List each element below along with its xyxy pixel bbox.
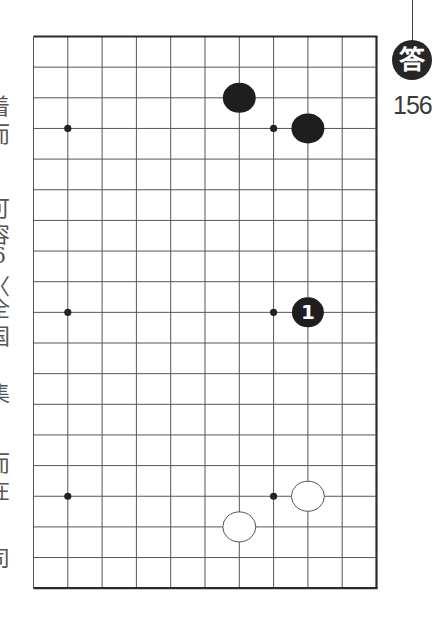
star-point [270, 309, 277, 316]
problem-number: 156 [393, 91, 438, 119]
answer-badge-icon: 答 [392, 40, 432, 80]
black-stone[interactable] [291, 113, 324, 143]
white-stone-shape [223, 512, 256, 542]
white-stone[interactable] [291, 481, 324, 511]
black-stone-shape [291, 113, 324, 143]
star-point [270, 125, 277, 132]
white-stone-shape [291, 481, 324, 511]
white-stone[interactable] [223, 512, 256, 542]
star-point [64, 125, 71, 132]
star-point [64, 493, 71, 500]
stone-move-number: 1 [301, 300, 315, 324]
answer-connector-line [412, 0, 413, 42]
board-grid [34, 37, 378, 589]
star-point [270, 493, 277, 500]
black-stone[interactable] [223, 83, 256, 113]
star-point [64, 309, 71, 316]
go-board[interactable]: 1 [0, 0, 438, 642]
black-stone-move-1[interactable]: 1 [292, 297, 324, 327]
answer-badge-label: 答 [399, 45, 425, 75]
black-stone-shape [223, 83, 256, 113]
